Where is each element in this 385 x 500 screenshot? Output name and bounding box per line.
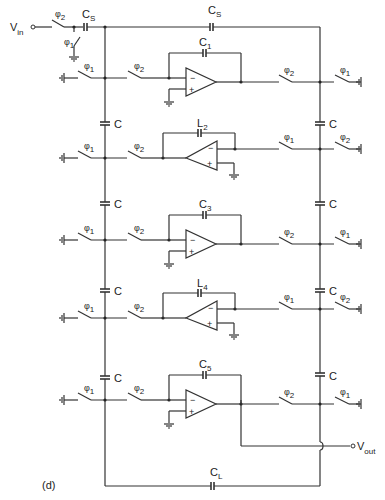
svg-text:φ1: φ1 [284,132,295,145]
svg-text:φ1: φ1 [340,227,351,240]
svg-text:φ1: φ1 [84,383,95,396]
svg-text:C5: C5 [199,358,212,373]
ground-switch-label: φ1 [64,37,75,50]
svg-text:+: + [189,247,194,257]
svg-text:−: − [190,395,195,405]
svg-text:φ1: φ1 [84,61,95,74]
ladder-filter-schematic: Vin φ2 φ1 CS CS C C [0,0,385,500]
ground-icon [229,175,239,179]
cs1-label: CS [82,8,95,23]
ground-icon [229,335,239,339]
svg-text:φ1: φ1 [284,292,295,305]
svg-text:φ2: φ2 [134,141,145,154]
svg-text:C: C [329,285,337,297]
svg-text:C: C [114,285,122,297]
ground-icon [69,57,79,61]
svg-text:C3: C3 [199,198,212,213]
vout-terminal [351,444,355,448]
svg-text:φ2: φ2 [134,61,145,74]
svg-text:+: + [207,159,212,169]
ground-switch-phi1 [74,37,80,46]
ground-icon [60,153,64,163]
svg-text:+: + [189,85,194,95]
svg-text:C: C [114,118,122,130]
figure-label: (d) [42,479,55,491]
svg-text:φ2: φ2 [134,223,145,236]
cl-label: CL [210,466,223,481]
ground-icon [164,102,174,106]
ground-icon [60,235,64,245]
svg-text:φ1: φ1 [84,301,95,314]
ground-icon [60,313,64,323]
cs2-label: CS [208,4,221,19]
ground-icon [164,264,174,268]
svg-text:−: − [190,73,195,83]
ground-icon [357,144,361,154]
svg-text:φ2: φ2 [340,292,351,305]
vout-label: Vout [357,440,376,456]
svg-text:φ2: φ2 [340,132,351,145]
right-rail: C C C C CL [210,84,337,490]
svg-text:φ1: φ1 [84,141,95,154]
svg-text:−: − [190,235,195,245]
ground-icon [60,395,64,405]
svg-text:φ2: φ2 [284,227,295,240]
svg-text:+: + [207,319,212,329]
svg-text:φ2: φ2 [134,301,145,314]
ground-icon [357,239,361,249]
output-section: Vout [241,400,376,456]
ground-icon [357,399,361,409]
svg-text:φ2: φ2 [284,65,295,78]
ground-icon [357,77,361,87]
ground-icon [357,304,361,314]
svg-text:−: − [208,303,213,313]
svg-text:φ1: φ1 [84,223,95,236]
svg-text:C: C [329,118,337,130]
left-rail: C C C C [100,27,211,486]
vin-terminal [31,25,35,29]
svg-text:C: C [329,198,337,210]
svg-text:C1: C1 [199,36,212,51]
vin-label: Vin [10,21,24,37]
svg-text:φ1: φ1 [340,387,351,400]
input-switch-label: φ2 [55,9,66,22]
input-section: Vin φ2 φ1 CS CS [10,4,320,84]
svg-text:−: − [208,143,213,153]
svg-text:C: C [329,370,337,382]
svg-text:C: C [114,372,122,384]
ground-icon [60,73,64,83]
svg-text:φ1: φ1 [340,65,351,78]
svg-text:C: C [114,198,122,210]
ground-icon [164,424,174,428]
svg-text:φ2: φ2 [284,387,295,400]
svg-text:+: + [189,407,194,417]
svg-text:φ2: φ2 [134,383,145,396]
